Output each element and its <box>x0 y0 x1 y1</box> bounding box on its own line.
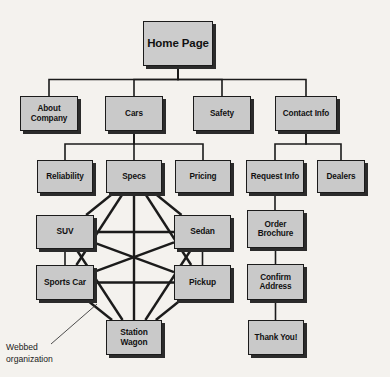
node-stationwagon[interactable]: Station Wagon <box>106 320 162 355</box>
node-label-specs: Specs <box>120 172 148 181</box>
edge-home-to-cars <box>134 66 178 96</box>
node-label-home: Home Page <box>145 37 211 50</box>
node-label-about: About Company <box>29 104 70 122</box>
node-label-requestinfo: Request Info <box>249 172 301 181</box>
node-label-reliability: Reliability <box>44 172 86 181</box>
node-safety[interactable]: Safety <box>193 96 251 131</box>
node-label-stationwagon: Station Wagon <box>118 328 150 347</box>
node-cars[interactable]: Cars <box>105 96 163 131</box>
node-label-pickup: Pickup <box>187 278 218 287</box>
node-label-suv: SUV <box>55 227 76 236</box>
webbed-organization-annotation: Webbed organization <box>6 341 76 366</box>
node-label-orderbrochure: Order Brochure <box>256 220 296 238</box>
web-edge-pickup-to-stationwagon <box>156 300 181 320</box>
annotation-leader-line <box>51 304 97 344</box>
node-suv[interactable]: SUV <box>36 215 94 249</box>
node-orderbrochure[interactable]: Order Brochure <box>247 210 304 248</box>
node-label-cars: Cars <box>123 109 145 118</box>
edge-cars-to-reliability <box>65 131 134 160</box>
node-confirm[interactable]: Confirm Address <box>247 264 304 300</box>
node-label-sportscar: Sports Car <box>42 278 88 287</box>
node-specs[interactable]: Specs <box>106 160 162 193</box>
node-label-thankyou: Thank You! <box>253 333 300 342</box>
edge-cars-to-pricing <box>134 131 203 160</box>
node-requestinfo[interactable]: Request Info <box>246 160 304 193</box>
node-thankyou[interactable]: Thank You! <box>248 320 304 355</box>
node-sedan[interactable]: Sedan <box>174 215 231 249</box>
node-pricing[interactable]: Pricing <box>175 160 231 193</box>
node-label-pricing: Pricing <box>187 172 218 181</box>
web-edge-specs-to-suv <box>86 193 113 215</box>
edge-home-to-safety <box>178 66 222 96</box>
edge-contact-to-dealers <box>306 131 341 160</box>
node-home[interactable]: Home Page <box>143 21 213 66</box>
web-edge-specs-to-sedan <box>154 193 181 215</box>
node-label-dealers: Dealers <box>325 172 358 181</box>
node-contact[interactable]: Contact Info <box>275 96 337 131</box>
site-map-diagram: Home PageAbout CompanyCarsSafetyContact … <box>0 0 390 377</box>
node-label-sedan: Sedan <box>188 227 217 236</box>
edge-home-to-contact <box>178 66 306 96</box>
node-sportscar[interactable]: Sports Car <box>36 265 94 300</box>
node-pickup[interactable]: Pickup <box>174 265 231 300</box>
node-reliability[interactable]: Reliability <box>37 160 93 193</box>
node-label-confirm: Confirm Address <box>257 273 293 291</box>
node-dealers[interactable]: Dealers <box>317 160 365 193</box>
node-label-contact: Contact Info <box>281 109 332 118</box>
edge-contact-to-requestinfo <box>275 131 306 160</box>
node-about[interactable]: About Company <box>20 96 78 131</box>
node-label-safety: Safety <box>208 109 236 118</box>
edge-home-to-about <box>49 66 178 96</box>
